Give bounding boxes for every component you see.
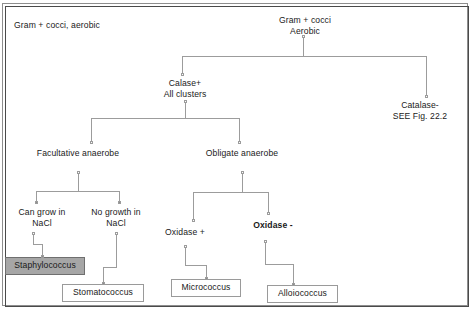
terminal-staphylococcus: Staphylococcus [5,257,85,275]
connector-endpoint-oxidase-negative [267,212,270,215]
node-root: Gram + cocci Aerobic [255,15,355,36]
connector-endpoint-stomatococcus [102,282,105,285]
connector-root-to-catalase-positive [182,56,183,74]
connector-endpoint-oxidase-positive [192,219,195,222]
connector-root-to-catalase-negative [426,56,427,96]
connector-endpoint-catalase-negative [425,95,428,98]
node-nacl-growth: Can grow in NaCl [6,207,78,228]
connector-to-facultative [91,118,92,142]
connector-facultative-bar [36,191,119,192]
connector-obligate-stem [242,172,243,193]
connector-endpoint-staphylococcus [41,255,44,258]
connector-oxidase-negative-elbow [265,264,293,265]
connector-nacl-no-growth-elbow [103,267,117,268]
connector-endpoint-facultative-stem [77,171,80,174]
connector-nacl-no-growth-stem [116,233,117,268]
connector-oxidase-positive-elbow [185,265,206,266]
connector-endpoint-micrococcus [205,277,208,280]
connector-endpoint-root [302,35,305,38]
figure-caption: Gram + cocci, aerobic [14,20,174,31]
connector-endpoint-catalase-positive [181,73,184,76]
connector-to-oxidase-positive [193,192,194,220]
connector-catalase-positive-bar [91,118,239,119]
connector-endpoint-nacl-growth [35,201,38,204]
connector-endpoint-nacl-no-growth [118,201,121,204]
node-nacl-no-growth: No growth in NaCl [80,207,152,228]
node-catalase-negative: Catalase- SEE Fig. 22.2 [370,100,470,121]
node-catalase-positive: Calase+ All clusters [135,78,235,99]
connector-oxidase-negative-drop [293,264,294,285]
terminal-stomatococcus: Stomatococcus [62,284,144,302]
connector-obligate-bar [193,192,268,193]
connector-endpoint-oxidase-positive-stem [184,245,187,248]
connector-endpoint-alloiococcus [292,283,295,286]
connector-endpoint-oxidase-negative-stem [264,240,267,243]
connector-to-oxidase-negative [268,192,269,213]
connector-endpoint-nacl-no-growth-stem [115,232,118,235]
connector-oxidase-negative-stem [265,241,266,265]
terminal-micrococcus: Micrococcus [171,279,241,297]
connector-oxidase-positive-stem [185,246,186,266]
connector-to-obligate [239,118,240,142]
node-oxidase-positive: Oxidase + [150,227,220,238]
figure-canvas: Gram + cocci, aerobic Gram + cocci Aerob… [0,0,474,315]
connector-root-bar [182,56,426,57]
connector-endpoint-obligate [238,141,241,144]
connector-endpoint-nacl-growth-stem [32,232,35,235]
terminal-alloiococcus: Alloiococcus [267,285,338,303]
node-facultative-anaerobe: Facultative anaerobe [23,148,133,159]
connector-endpoint-catalase-positive-stem [184,100,187,103]
connector-endpoint-obligate-stem [241,171,244,174]
connector-catalase-positive-stem [185,101,186,119]
connector-nacl-growth-elbow [33,244,42,245]
node-oxidase-negative: Oxidase - [238,220,308,231]
connector-root-stem [303,36,304,57]
connector-facultative-stem [78,172,79,192]
node-obligate-anaerobe: Obligate anaerobe [190,148,294,159]
connector-endpoint-facultative [90,141,93,144]
